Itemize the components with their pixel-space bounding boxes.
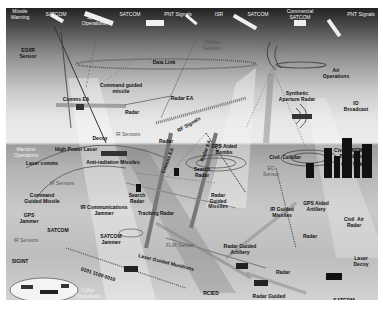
label-ir-sensors-ground: IR Sensors [50, 181, 75, 187]
label-eo-sensor: EO Sensor [263, 166, 279, 177]
label-satcom-jammer: SATCOM Jammer [100, 234, 121, 245]
connection-lines [6, 8, 378, 300]
label-civil-wimax: Civil WiMax [341, 162, 369, 168]
label-high-power-laser: High Power Laser [55, 147, 97, 153]
label-sigint: SIGINT [12, 259, 29, 265]
label-ir-guided-missiles: IR Guided Missiles [270, 207, 294, 218]
label-anti-radiation-missiles: Anti-radiation Missiles [86, 160, 139, 166]
label-space-operations: Space Operations [82, 15, 106, 26]
label-gps-aided-bombs: GPS Aided Bombs [211, 144, 237, 155]
label-search-radar-2: Search Radar [194, 167, 211, 178]
label-commercial-satcom: Commercial SATCOM [287, 9, 314, 20]
label-flir-sensor: FLIR Sensor [166, 243, 194, 249]
label-satcom-3: SATCOM [247, 12, 268, 18]
label-ir-sensors-air: IR Sensors [116, 132, 141, 138]
ems-scene: Missile Warning SATCOM Space Operations … [6, 8, 378, 300]
label-decoy: Decoy [92, 136, 107, 142]
label-satcom-4: SATCOM [333, 298, 354, 300]
label-radar-3: Radar [276, 270, 290, 276]
label-tracking-radar: Tracking Radar [138, 211, 174, 217]
label-radar-guided-missiles-2: Radar Guided Missiles [253, 294, 286, 300]
label-ir-sensors-2: IR Sensors [14, 238, 39, 244]
label-satcom-1: SATCOM [45, 12, 66, 18]
label-command-guided-missile-ground: Command Guided Missile [24, 193, 59, 204]
label-air-operations: Air Operations [323, 68, 349, 79]
label-radar-air: Radar [125, 110, 139, 116]
label-gps-jammer: GPS Jammer [19, 213, 38, 224]
label-civil-cellular: Civil Cellular [269, 155, 301, 161]
label-satcom-ground: SATCOM [47, 228, 68, 234]
diagram-canvas: Missile Warning SATCOM Space Operations … [0, 0, 383, 310]
label-radar-ground: Radar [303, 234, 317, 240]
label-radar-air-2: Radar [159, 139, 173, 145]
label-rcied: RCIED [203, 291, 219, 297]
label-command-guided-missile: Command guided missile [100, 83, 142, 94]
label-radar-guided-missiles: Radar Guided Missiles [208, 193, 227, 210]
label-search-radar-1: Search Radar [129, 193, 146, 204]
label-radar-guided-artillery: Radar Guided Artillery [224, 244, 257, 255]
label-gps-aided-artillery: GPS Aided Artillery [303, 201, 329, 212]
label-isr: ISR [215, 12, 223, 18]
label-pnt-signals-1: PNT Signals [164, 12, 192, 18]
label-comms-ea: Comms EA [63, 97, 90, 103]
label-synthetic-aperture-radar: Synthetic Aperture Radar [279, 91, 315, 102]
label-radar-ea: Radar EA [171, 96, 194, 102]
label-io-broadcast: IO Broadcast [344, 101, 368, 112]
label-laser-decoy: Laser Decoy [353, 256, 368, 267]
label-satcom-2: SATCOM [119, 12, 140, 18]
label-ir-communications-jammer: IR Communications Jammer [81, 205, 128, 216]
label-eo-ir-sensor: EO/IR Sensor [20, 48, 37, 59]
label-data-link: Data Link [153, 60, 176, 66]
label-civil-air-radar: Civil Air Radar [344, 217, 364, 228]
label-cyber-operations: Cyber Operations [76, 288, 100, 299]
label-laser-comms: Laser comms [26, 161, 58, 167]
label-missile-warning: Missile Warning [11, 9, 29, 20]
label-orbital-sensors: Orbital Sensors [203, 40, 221, 51]
label-maritime-operations: Maritime Operations [14, 147, 38, 158]
label-civil-am-fm-tv: Civil AM/FM/TV Broadcast [334, 148, 370, 159]
label-pnt-signals-2: PNT Signals [347, 12, 375, 18]
